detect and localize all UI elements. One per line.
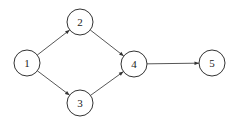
edge-4-to-5 — [147, 63, 199, 64]
network-diagram: 12345 — [0, 0, 236, 125]
node-2: 2 — [67, 9, 93, 35]
node-4: 4 — [121, 51, 147, 77]
node-label: 3 — [77, 97, 83, 109]
node-label: 1 — [24, 57, 30, 69]
node-3: 3 — [67, 90, 93, 116]
node-1: 1 — [14, 50, 40, 76]
node-label: 4 — [131, 58, 137, 70]
edge-1-to-2 — [37, 30, 69, 55]
node-5: 5 — [199, 50, 225, 76]
node-label: 5 — [209, 57, 215, 69]
node-label: 2 — [77, 16, 83, 28]
nodes-group: 12345 — [14, 9, 225, 116]
edge-2-to-4 — [90, 30, 123, 56]
edges-group — [37, 30, 199, 95]
edge-1-to-3 — [37, 71, 69, 95]
edge-3-to-4 — [91, 72, 124, 96]
